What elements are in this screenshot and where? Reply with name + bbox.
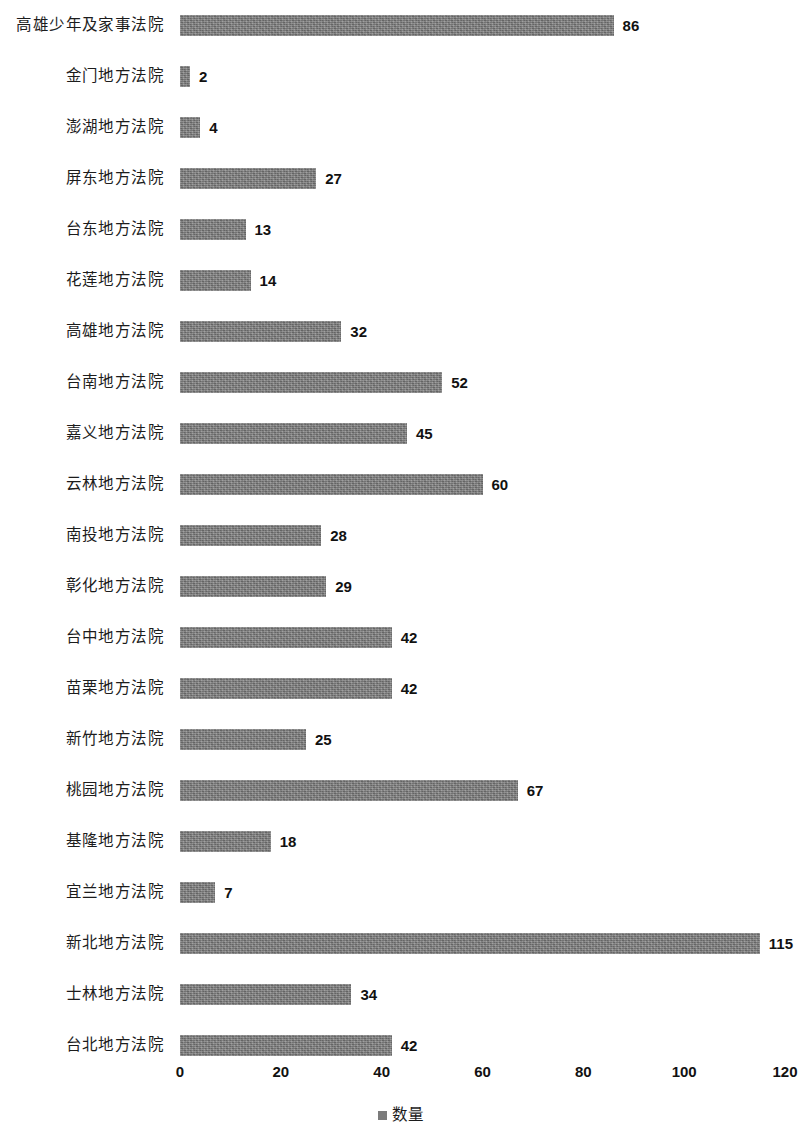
bar-track: 2 xyxy=(180,66,801,87)
bar xyxy=(180,168,316,189)
bar-value-label: 42 xyxy=(401,681,418,696)
bar-track: 7 xyxy=(180,882,801,903)
x-axis-tick: 100 xyxy=(672,1063,697,1080)
bar xyxy=(180,678,392,699)
category-label: 澎湖地方法院 xyxy=(0,120,172,136)
category-label: 台中地方法院 xyxy=(0,630,172,646)
category-label: 基隆地方法院 xyxy=(0,834,172,850)
bar-track: 13 xyxy=(180,219,801,240)
bar-row: 士林地方法院34 xyxy=(0,969,801,1020)
bar-row: 南投地方法院28 xyxy=(0,510,801,561)
category-label: 苗栗地方法院 xyxy=(0,681,172,697)
bar-row: 高雄地方法院32 xyxy=(0,306,801,357)
bar-row: 澎湖地方法院4 xyxy=(0,102,801,153)
bar-value-label: 32 xyxy=(350,324,367,339)
bar-chart: 高雄少年及家事法院86金门地方法院2澎湖地方法院4屏东地方法院27台东地方法院1… xyxy=(0,0,801,1135)
category-label: 金门地方法院 xyxy=(0,69,172,85)
bar xyxy=(180,270,251,291)
category-label: 彰化地方法院 xyxy=(0,579,172,595)
bar-track: 4 xyxy=(180,117,801,138)
legend-label: 数量 xyxy=(392,1108,424,1124)
category-label: 宜兰地方法院 xyxy=(0,885,172,901)
bar-row: 桃园地方法院67 xyxy=(0,765,801,816)
bar-row: 宜兰地方法院7 xyxy=(0,867,801,918)
bar-track: 25 xyxy=(180,729,801,750)
chart-legend: 数量 xyxy=(0,1108,801,1124)
bar xyxy=(180,66,190,87)
bar-row: 台中地方法院42 xyxy=(0,612,801,663)
bar xyxy=(180,1035,392,1056)
bar-row: 云林地方法院60 xyxy=(0,459,801,510)
bar xyxy=(180,423,407,444)
x-axis-tick: 0 xyxy=(176,1063,184,1080)
bar-row: 彰化地方法院29 xyxy=(0,561,801,612)
bar-row: 台南地方法院52 xyxy=(0,357,801,408)
bar xyxy=(180,882,215,903)
bar-row: 嘉义地方法院45 xyxy=(0,408,801,459)
legend-swatch-icon xyxy=(378,1111,387,1120)
bar-row: 高雄少年及家事法院86 xyxy=(0,0,801,51)
x-axis-tick: 40 xyxy=(373,1063,390,1080)
category-label: 高雄少年及家事法院 xyxy=(0,18,172,34)
category-label: 台北地方法院 xyxy=(0,1038,172,1054)
bar-row: 屏东地方法院27 xyxy=(0,153,801,204)
bar xyxy=(180,627,392,648)
category-label: 南投地方法院 xyxy=(0,528,172,544)
bar xyxy=(180,219,246,240)
bar-row: 花莲地方法院14 xyxy=(0,255,801,306)
bar-track: 34 xyxy=(180,984,801,1005)
category-label: 新北地方法院 xyxy=(0,936,172,952)
bar-value-label: 86 xyxy=(623,18,640,33)
bar-value-label: 25 xyxy=(315,732,332,747)
bar-value-label: 42 xyxy=(401,1038,418,1053)
bar-value-label: 14 xyxy=(260,273,277,288)
bar xyxy=(180,372,442,393)
x-axis-tick: 120 xyxy=(772,1063,797,1080)
bar xyxy=(180,933,760,954)
x-axis-tick: 60 xyxy=(474,1063,491,1080)
bar-track: 14 xyxy=(180,270,801,291)
category-label: 高雄地方法院 xyxy=(0,324,172,340)
bar-value-label: 52 xyxy=(451,375,468,390)
x-axis: 020406080100120 xyxy=(0,1063,801,1093)
bar-track: 27 xyxy=(180,168,801,189)
bar-value-label: 34 xyxy=(360,987,377,1002)
bar-value-label: 29 xyxy=(335,579,352,594)
category-label: 花莲地方法院 xyxy=(0,273,172,289)
bar xyxy=(180,780,518,801)
category-label: 桃园地方法院 xyxy=(0,783,172,799)
bar-value-label: 13 xyxy=(255,222,272,237)
bar-value-label: 4 xyxy=(209,120,217,135)
bar-value-label: 60 xyxy=(492,477,509,492)
bar xyxy=(180,474,483,495)
bar-value-label: 67 xyxy=(527,783,544,798)
bar xyxy=(180,576,326,597)
bar-value-label: 7 xyxy=(224,885,232,900)
bar-track: 42 xyxy=(180,1035,801,1056)
bar-track: 32 xyxy=(180,321,801,342)
bar-value-label: 27 xyxy=(325,171,342,186)
category-label: 屏东地方法院 xyxy=(0,171,172,187)
bar-track: 60 xyxy=(180,474,801,495)
bar xyxy=(180,831,271,852)
category-label: 新竹地方法院 xyxy=(0,732,172,748)
category-label: 台东地方法院 xyxy=(0,222,172,238)
bar-value-label: 115 xyxy=(769,936,793,951)
bar-track: 42 xyxy=(180,627,801,648)
bar-value-label: 2 xyxy=(199,69,207,84)
bar-track: 45 xyxy=(180,423,801,444)
category-label: 台南地方法院 xyxy=(0,375,172,391)
bar xyxy=(180,15,614,36)
bar-row: 新竹地方法院25 xyxy=(0,714,801,765)
bar-track: 67 xyxy=(180,780,801,801)
bar-value-label: 18 xyxy=(280,834,297,849)
chart-plot-area: 高雄少年及家事法院86金门地方法院2澎湖地方法院4屏东地方法院27台东地方法院1… xyxy=(0,0,801,1071)
category-label: 士林地方法院 xyxy=(0,987,172,1003)
bar-track: 28 xyxy=(180,525,801,546)
x-axis-tick: 20 xyxy=(272,1063,289,1080)
bar xyxy=(180,984,351,1005)
bar-row: 台东地方法院13 xyxy=(0,204,801,255)
bar-track: 42 xyxy=(180,678,801,699)
bar-row: 新北地方法院115 xyxy=(0,918,801,969)
category-label: 云林地方法院 xyxy=(0,477,172,493)
